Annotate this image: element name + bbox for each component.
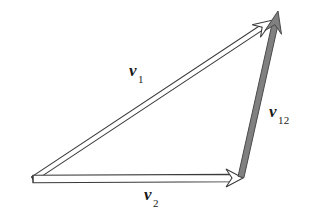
vector-diagram-figure: v1 v12 v2: [0, 0, 323, 216]
vector-label-v1: v1: [129, 62, 143, 82]
vector-label-v12: v12: [269, 103, 289, 123]
vector-label-v2-subscript: 2: [153, 197, 159, 209]
vector-v2-shaft: [33, 174, 232, 182]
vector-label-v12-subscript: 12: [278, 114, 290, 126]
vector-label-v2-base: v: [144, 185, 152, 204]
vector-label-v1-subscript: 1: [138, 73, 144, 85]
vector-label-v1-base: v: [129, 61, 137, 80]
vector-label-v2: v2: [144, 186, 158, 206]
vector-label-v12-base: v: [269, 102, 277, 121]
